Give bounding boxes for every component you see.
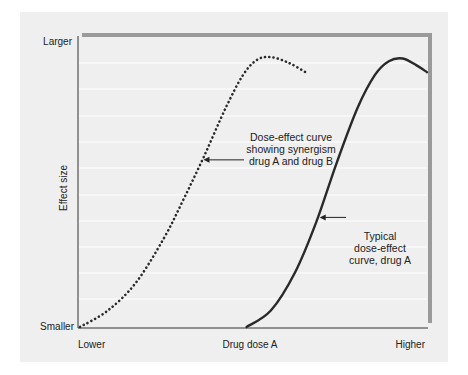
- synergism-curve-dotted: [80, 57, 306, 327]
- annotation-typical-line-2: dose-effect: [354, 242, 406, 254]
- annotation-synergism: Dose-effect curve showing synergism drug…: [203, 131, 335, 167]
- typical-arrow-head: [320, 214, 326, 220]
- annotation-typical-arrow: [320, 214, 346, 220]
- y-axis-label: Effect size: [58, 165, 69, 211]
- y-tick-label-max: Larger: [43, 36, 73, 47]
- y-tick-label-min: Smaller: [40, 321, 75, 332]
- x-axis-label: Drug dose A: [222, 339, 277, 350]
- annotation-synergism-arrow: [203, 157, 244, 163]
- x-tick-label-min: Lower: [78, 339, 106, 350]
- series-layer: [80, 57, 427, 327]
- drug-a-curve-solid: [247, 58, 427, 327]
- annotation-typical: Typical dose-effect curve, drug A: [320, 214, 411, 266]
- x-tick-label-max: Higher: [396, 339, 426, 350]
- annotation-typical-line-1: Typical: [364, 230, 397, 242]
- dose-effect-chart: Larger Smaller Effect size Lower Drug do…: [0, 0, 468, 375]
- annotation-typical-line-3: curve, drug A: [349, 254, 411, 266]
- annotation-synergism-line-1: Dose-effect curve: [250, 131, 332, 143]
- annotation-synergism-line-3: drug A and drug B: [249, 155, 333, 167]
- right-frame-band: [428, 33, 432, 323]
- top-frame-band: [82, 33, 432, 37]
- annotation-synergism-line-2: showing synergism: [246, 143, 336, 155]
